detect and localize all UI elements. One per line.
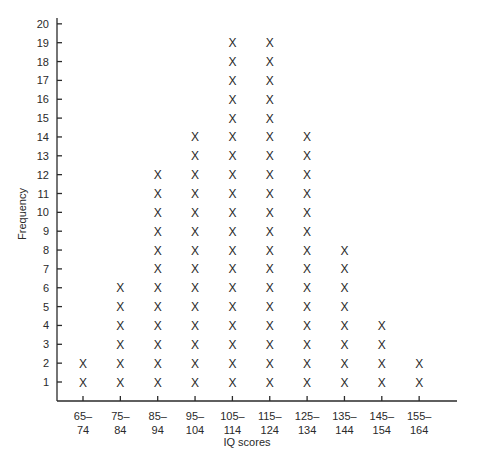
x-marker: X — [191, 206, 199, 220]
y-tick-label: 1 — [43, 376, 49, 388]
x-marker: X — [303, 225, 311, 239]
x-marker: X — [228, 93, 236, 107]
x-marker: X — [266, 319, 274, 333]
y-tick-label: 10 — [37, 206, 49, 218]
x-marker: X — [303, 338, 311, 352]
y-tick-label: 5 — [43, 301, 49, 313]
y-tick-label: 11 — [38, 188, 49, 200]
x-tick-label: 145–154 — [370, 410, 395, 436]
x-marker: X — [340, 338, 348, 352]
x-marker: X — [266, 244, 274, 258]
y-tick-label: 17 — [37, 74, 49, 86]
y-tick-label: 13 — [37, 150, 49, 162]
x-marker: X — [266, 93, 274, 107]
x-marker: X — [191, 225, 199, 239]
x-marker: X — [154, 206, 162, 220]
y-tick-label: 2 — [43, 357, 49, 369]
x-marker: X — [191, 300, 199, 314]
x-marker: X — [154, 244, 162, 258]
x-marker: X — [266, 206, 274, 220]
x-marker: X — [266, 376, 274, 390]
x-marker: X — [303, 281, 311, 295]
x-marker: X — [266, 300, 274, 314]
x-marker: X — [378, 338, 386, 352]
y-tick-label: 3 — [43, 338, 49, 350]
x-marker: X — [266, 338, 274, 352]
x-marker: X — [340, 244, 348, 258]
x-marker: X — [116, 319, 124, 333]
x-marker: X — [154, 338, 162, 352]
x-marker: X — [266, 36, 274, 50]
x-marker: X — [228, 376, 236, 390]
x-marker: X — [303, 244, 311, 258]
x-marker: X — [303, 130, 311, 144]
x-marker: X — [154, 187, 162, 201]
y-axis-label: Frequency — [16, 188, 28, 240]
data-marks: XXXXXXXXXXXXXXXXXXXXXXXXXXXXXXXXXXXXXXXX… — [79, 36, 423, 389]
x-marker: X — [154, 225, 162, 239]
x-marker: X — [228, 319, 236, 333]
x-marker: X — [303, 376, 311, 390]
x-marker: X — [79, 357, 87, 371]
dot-column: XXXXXXXXXXXXXXXXXXX — [228, 36, 236, 389]
y-tick-label: 7 — [43, 263, 49, 275]
x-marker: X — [228, 168, 236, 182]
x-marker: X — [228, 187, 236, 201]
x-marker: X — [340, 357, 348, 371]
x-marker: X — [228, 338, 236, 352]
dot-column: XXXXXXXXXXXX — [154, 168, 162, 389]
x-marker: X — [228, 300, 236, 314]
x-marker: X — [191, 319, 199, 333]
x-marker: X — [191, 376, 199, 390]
x-tick-label: 125–134 — [295, 410, 320, 436]
x-marker: X — [266, 168, 274, 182]
x-tick-label: 95–104 — [186, 410, 205, 436]
x-marker: X — [116, 300, 124, 314]
y-tick-label: 14 — [37, 131, 49, 143]
y-tick-label: 6 — [43, 282, 49, 294]
x-tick-label: 135–144 — [332, 410, 357, 436]
x-marker: X — [266, 187, 274, 201]
x-marker: X — [154, 357, 162, 371]
dot-column: XX — [79, 357, 87, 390]
x-marker: X — [228, 244, 236, 258]
x-tick-label: 105–114 — [220, 410, 245, 436]
dot-column: XXXX — [378, 319, 386, 390]
x-marker: X — [116, 357, 124, 371]
x-marker: X — [378, 319, 386, 333]
x-axis-label: IQ scores — [223, 436, 271, 448]
x-tick-label: 75–84 — [111, 410, 130, 436]
x-marker: X — [228, 281, 236, 295]
x-marker: X — [340, 300, 348, 314]
x-marker: X — [191, 168, 199, 182]
x-marker: X — [116, 281, 124, 295]
x-marker: X — [228, 36, 236, 50]
dot-column: XXXXXX — [116, 281, 124, 389]
y-tick-label: 18 — [37, 56, 49, 68]
dot-column: XXXXXXXXXXXXXX — [191, 130, 199, 389]
x-marker: X — [340, 262, 348, 276]
x-marker: X — [266, 55, 274, 69]
x-marker: X — [266, 225, 274, 239]
x-marker: X — [303, 187, 311, 201]
y-tick-label: 16 — [37, 93, 49, 105]
x-marker: X — [303, 357, 311, 371]
x-marker: X — [340, 281, 348, 295]
x-marker: X — [303, 262, 311, 276]
x-marker: X — [266, 149, 274, 163]
dot-column: XXXXXXXX — [340, 244, 348, 390]
x-tick-label: 155–164 — [407, 410, 432, 436]
x-marker: X — [191, 130, 199, 144]
x-marker: X — [191, 281, 199, 295]
y-tick-label: 8 — [43, 244, 49, 256]
x-marker: X — [154, 281, 162, 295]
y-axis: 1234567891011121314151617181920 — [37, 18, 62, 401]
x-marker: X — [340, 319, 348, 333]
x-marker: X — [266, 357, 274, 371]
x-marker: X — [266, 281, 274, 295]
y-tick-label: 15 — [37, 112, 49, 124]
x-marker: X — [228, 225, 236, 239]
y-tick-label: 20 — [37, 18, 49, 30]
x-marker: X — [378, 357, 386, 371]
x-tick-label: 85–94 — [149, 410, 168, 436]
